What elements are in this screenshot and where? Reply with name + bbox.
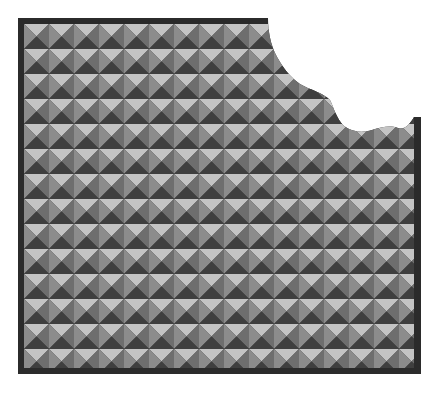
panel [18,18,421,374]
studded-panel-graphic [0,0,437,395]
stud-texture [24,24,414,368]
